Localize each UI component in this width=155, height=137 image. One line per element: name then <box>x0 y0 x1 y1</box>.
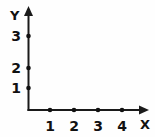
y-tick-label-1: 1 <box>7 81 21 95</box>
x-tick-label-1: 1 <box>43 119 57 133</box>
x-tick-label-3: 3 <box>91 119 105 133</box>
y-tick-label-2: 2 <box>7 61 21 75</box>
x-tick-dot-2 <box>72 108 77 113</box>
y-tick-dot-1 <box>26 86 31 91</box>
coordinate-axes-figure: Y X 3 2 1 1 2 3 4 <box>0 0 155 137</box>
x-tick-dot-4 <box>120 108 125 113</box>
axes-drawing <box>0 0 155 137</box>
x-axis-label: X <box>140 118 150 131</box>
y-axis-label: Y <box>10 9 19 22</box>
y-tick-dot-3 <box>26 34 31 39</box>
x-tick-label-4: 4 <box>115 119 129 133</box>
x-axis-arrow-icon <box>139 106 149 115</box>
x-tick-dot-3 <box>96 108 101 113</box>
y-axis-arrow-icon <box>24 6 33 16</box>
y-tick-dot-2 <box>26 66 31 71</box>
x-tick-dot-1 <box>48 108 53 113</box>
y-tick-label-3: 3 <box>7 29 21 43</box>
x-tick-label-2: 2 <box>67 119 81 133</box>
